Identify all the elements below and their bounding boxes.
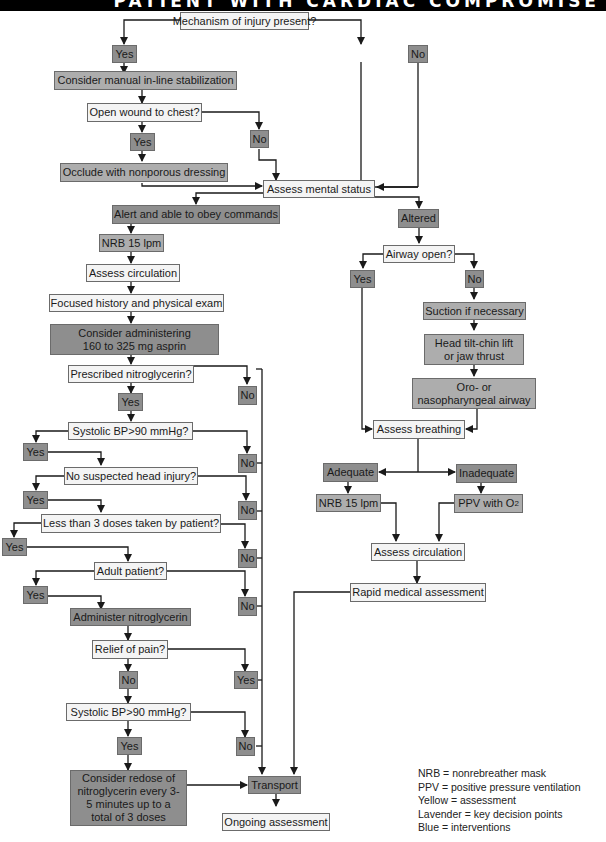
- node-adult-patient: Adult patient?: [94, 562, 167, 580]
- node-assess-circulation-left: Assess circulation: [86, 264, 180, 282]
- ppv-subscript: 2: [514, 497, 518, 510]
- node-altered: Altered: [398, 209, 439, 228]
- node-oro-naso-airway: Oro- or nasopharyngeal airway: [412, 378, 536, 409]
- node-consider-aspirin: Consider administering 160 to 325 mg asp…: [50, 324, 219, 355]
- legend-item-lavender: Lavender = key decision points: [418, 808, 581, 822]
- node-adult-yes: Yes: [23, 586, 48, 604]
- node-sbp1-no: No: [238, 454, 257, 473]
- node-doses-yes: Yes: [2, 538, 27, 556]
- node-inline-stabilization: Consider manual in-line stabilization: [54, 71, 237, 90]
- node-doses-no: No: [238, 549, 257, 568]
- node-airway-no: No: [465, 270, 484, 288]
- node-consider-redose: Consider redose of nitroglycerin every 3…: [70, 770, 187, 826]
- aspirin-line-1: Consider administering: [78, 327, 191, 340]
- node-adequate: Adequate: [323, 463, 378, 482]
- node-occlude-dressing: Occlude with nonporous dressing: [60, 163, 228, 182]
- legend-item-ppv: PPV = positive pressure ventilation: [418, 781, 581, 795]
- legend-item-nrb: NRB = nonrebreather mask: [418, 767, 581, 781]
- node-mechanism-of-injury: Mechanism of injury present?: [180, 12, 309, 30]
- node-sbp1-yes: Yes: [23, 443, 48, 461]
- node-relief-no: No: [119, 671, 138, 689]
- node-head-no: No: [238, 501, 257, 520]
- node-transport: Transport: [248, 776, 301, 794]
- node-assess-circulation-right: Assess circulation: [371, 543, 465, 561]
- node-administer-nitroglycerin: Administer nitroglycerin: [70, 608, 191, 626]
- node-prescribed-nitroglycerin: Prescribed nitroglycerin?: [68, 365, 194, 383]
- node-systolic-bp-2: Systolic BP>90 mmHg?: [66, 703, 191, 721]
- node-airway-open: Airway open?: [383, 245, 455, 263]
- node-head-yes: Yes: [23, 491, 48, 509]
- node-suction: Suction if necessary: [423, 302, 526, 320]
- node-sbp2-yes: Yes: [117, 737, 142, 755]
- node-open-wound-no: No: [250, 130, 269, 148]
- node-mechanism-yes: Yes: [112, 45, 137, 63]
- node-nrb-15-left: NRB 15 lpm: [99, 234, 164, 252]
- node-less-than-3-doses: Less than 3 doses taken by patient?: [41, 514, 221, 533]
- node-adult-no: No: [238, 597, 257, 616]
- aspirin-line-2: 160 to 325 mg asprin: [83, 340, 186, 353]
- node-airway-yes: Yes: [350, 270, 375, 288]
- legend: NRB = nonrebreather mask PPV = positive …: [418, 767, 581, 835]
- node-sbp2-no: No: [236, 737, 255, 756]
- node-prescribed-yes: Yes: [118, 393, 143, 411]
- ppv-label: PPV with O: [458, 497, 514, 510]
- node-inadequate: Inadequate: [456, 464, 517, 483]
- legend-item-yellow: Yellow = assessment: [418, 794, 581, 808]
- node-mechanism-no: No: [408, 45, 428, 63]
- node-relief-of-pain: Relief of pain?: [92, 640, 168, 659]
- node-open-wound-chest: Open wound to chest?: [87, 103, 202, 122]
- node-ongoing-assessment: Ongoing assessment: [222, 813, 330, 831]
- node-ppv-with-o2: PPV with O2: [454, 494, 523, 513]
- node-open-wound-yes: Yes: [130, 133, 155, 151]
- node-assess-mental-status: Assess mental status: [263, 180, 375, 198]
- node-rapid-medical-assessment: Rapid medical assessment: [350, 583, 486, 602]
- node-relief-yes: Yes: [234, 671, 258, 689]
- node-focused-history: Focused history and physical exam: [49, 294, 224, 312]
- node-assess-breathing: Assess breathing: [373, 420, 465, 439]
- node-nrb-15-right: NRB 15 lpm: [316, 494, 381, 512]
- node-alert-obey: Alert and able to obey commands: [112, 205, 280, 224]
- legend-item-blue: Blue = interventions: [418, 821, 581, 835]
- node-prescribed-no: No: [238, 386, 257, 405]
- node-no-head-injury: No suspected head injury?: [64, 467, 198, 485]
- node-head-tilt-chin-lift: Head tilt-chin lift or jaw thrust: [424, 334, 524, 365]
- node-systolic-bp-1: Systolic BP>90 mmHg?: [68, 422, 193, 440]
